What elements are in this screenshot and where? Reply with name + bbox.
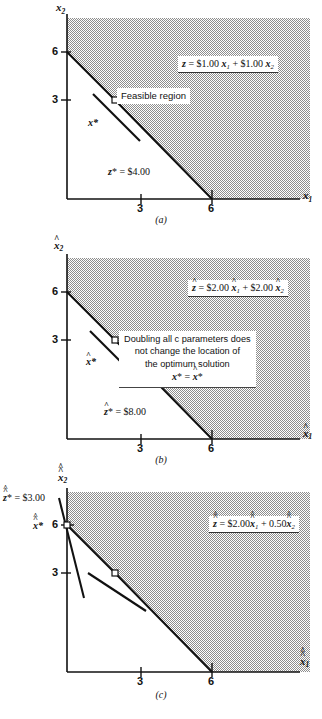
x-axis-label-a: x1 bbox=[303, 190, 312, 204]
note-block-b: Doubling all c parameters does not chang… bbox=[119, 331, 256, 388]
y-tick-label-3-a: 3 bbox=[52, 94, 58, 105]
note-equation: x* = ^x* bbox=[124, 370, 251, 384]
x-axis-label-c: ^^x1 bbox=[300, 656, 309, 669]
x-tick-label-3-c: 3 bbox=[137, 676, 143, 687]
note-line-3: the optimum solution bbox=[124, 358, 251, 370]
feasible-region-label-a: Feasible region bbox=[117, 88, 190, 104]
y-axis-label-a: x2 bbox=[56, 2, 65, 16]
optimum-value-label-b: ^z* = $8.00 bbox=[104, 406, 146, 417]
note-line-1: Doubling all c parameters does bbox=[124, 333, 251, 345]
y-tick-label-3-b: 3 bbox=[52, 334, 58, 345]
panel-b: ^x2 ^x1 6 3 3 6 ^z = $2.00 ^x1 + $2.00 ^… bbox=[0, 232, 322, 470]
panel-c-plot bbox=[0, 470, 322, 719]
y-tick-label-6-c: 6 bbox=[52, 519, 58, 530]
feasible-region-shading bbox=[67, 18, 310, 199]
panel-c: ^^x2 ^^x1 6 3 3 6 ^^z* = $3.00 ^^x* ^^z … bbox=[0, 470, 322, 719]
panel-a: x2 x1 6 3 3 6 z = $1.00 x1 + $1.00 x2 Fe… bbox=[0, 0, 322, 232]
optimum-point-label-b: ^x* bbox=[86, 356, 96, 367]
optimum-point-label-c: ^^x* bbox=[33, 520, 43, 531]
optimum-value-label-a: z* = $4.00 bbox=[108, 166, 150, 177]
optimum-marker-b bbox=[112, 337, 118, 343]
figure-container: x2 x1 6 3 3 6 z = $1.00 x1 + $1.00 x2 Fe… bbox=[0, 0, 322, 719]
optimum-marker-c bbox=[64, 522, 70, 528]
x-tick-label-6-c: 6 bbox=[208, 676, 214, 687]
objective-equation-c: ^^z = $2.00^^x1 + 0.50^^x2 bbox=[209, 516, 299, 533]
y-axis-label-c: ^^x2 bbox=[58, 472, 67, 485]
panel-caption-a: (a) bbox=[0, 214, 322, 225]
panel-caption-b: (b) bbox=[0, 454, 322, 465]
y-axis-label-b: ^x2 bbox=[54, 240, 63, 253]
objective-equation-b: ^z = $2.00 ^x1 + $2.00 ^x2 bbox=[188, 280, 288, 297]
y-tick-label-6-a: 6 bbox=[52, 46, 58, 57]
x-tick-label-6-b: 6 bbox=[208, 443, 214, 454]
x-tick-label-3-a: 3 bbox=[137, 203, 143, 214]
optimum-point-label-a: x* bbox=[88, 117, 98, 128]
vertex-marker-c bbox=[112, 570, 118, 576]
optimum-value-label-c: ^^z* = $3.00 bbox=[3, 492, 45, 503]
x-tick-label-3-b: 3 bbox=[137, 443, 143, 454]
panel-caption-c: (c) bbox=[0, 689, 322, 700]
x-axis-label-b: ^x1 bbox=[303, 428, 312, 441]
panel-a-plot bbox=[0, 0, 322, 232]
note-line-2: not change the location of bbox=[124, 345, 251, 357]
y-tick-label-3-c: 3 bbox=[52, 567, 58, 578]
y-tick-label-6-b: 6 bbox=[52, 286, 58, 297]
x-tick-label-6-a: 6 bbox=[208, 203, 214, 214]
objective-equation-a: z = $1.00 x1 + $1.00 x2 bbox=[178, 56, 278, 73]
